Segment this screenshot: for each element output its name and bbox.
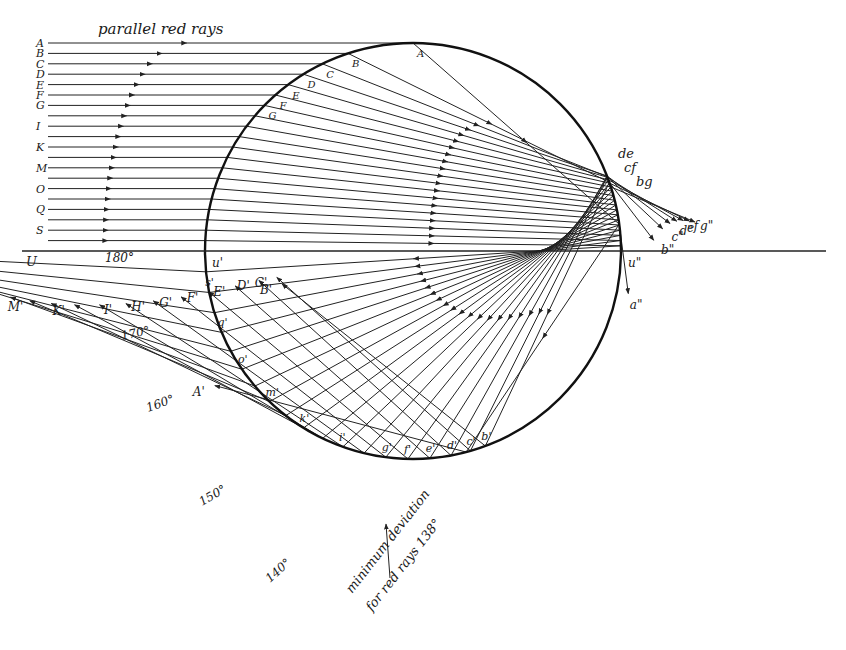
caustic-label-cf: cf: [624, 160, 638, 175]
secondary-label: b": [661, 243, 674, 257]
refracted-ray: [322, 64, 607, 177]
exit-label: M': [7, 300, 24, 314]
ray-label-S: S: [36, 224, 44, 237]
refracted-ray: [206, 230, 621, 240]
exit-ray: [30, 301, 270, 402]
back-label: c': [466, 435, 475, 448]
axis-label-u: U: [26, 254, 38, 269]
refracted-ray: [247, 126, 613, 191]
caustic-labels: de cf bg: [618, 146, 653, 189]
ray-label-M: M: [35, 162, 48, 175]
back-label: i': [339, 431, 346, 444]
optical-axis: U u' u": [22, 251, 826, 270]
rainbow-ray-diagram: parallel red rays U u' u" 180° 170° 160°…: [0, 0, 846, 650]
caustic-label-de: de: [618, 146, 634, 161]
angle-150: 150°: [197, 482, 229, 509]
axis-exit-label: u": [628, 256, 641, 270]
surface-label-G: G: [268, 110, 276, 121]
surface-label-D: D: [306, 79, 315, 90]
back-label: e': [426, 442, 436, 455]
back-label: k': [300, 412, 310, 425]
refracted-ray: [212, 199, 620, 225]
exit-label: I': [103, 303, 112, 317]
exit-label: K': [52, 304, 65, 318]
diagram-title: parallel red rays: [98, 20, 224, 38]
exit-label: H': [130, 300, 145, 314]
secondary-label: a": [630, 298, 643, 312]
ray-label-Q: Q: [36, 203, 45, 216]
exit-label: E': [212, 285, 225, 299]
ray-label-G: G: [36, 99, 45, 112]
refracted-ray: [303, 74, 607, 176]
exit-ray: [209, 292, 408, 459]
surface-label-F: F: [278, 100, 287, 111]
exit-label: D': [236, 279, 250, 293]
surface-label-A: A: [416, 48, 424, 59]
refracted-ray: [264, 105, 609, 183]
refracted-ray: [348, 53, 609, 182]
refracted-ray: [215, 189, 619, 220]
exit-label: A': [192, 385, 205, 399]
refracted-ray: [275, 95, 608, 180]
reflected-ray: [206, 246, 621, 272]
exit-ray: [235, 286, 430, 458]
ray-label-O: O: [36, 183, 45, 196]
min-deviation-annotation: minimum deviation for red rays 138°: [343, 487, 444, 615]
surface-label-C: C: [326, 69, 334, 80]
transmitted-ray: [611, 187, 695, 222]
refracted-ray: [209, 209, 620, 230]
secondary-label: g": [700, 219, 713, 233]
back-label: s': [205, 276, 214, 289]
ray-label-K: K: [35, 141, 45, 154]
exit-label: F': [186, 291, 199, 305]
exit-label: G': [159, 296, 172, 310]
angle-140: 140°: [263, 555, 294, 585]
back-label: q': [218, 316, 228, 329]
back-label: m': [266, 386, 279, 399]
axis-entry-label: u': [212, 256, 223, 270]
surface-label-B: B: [351, 58, 359, 69]
refracted-ray: [233, 147, 615, 200]
refracted-ray: [288, 85, 607, 178]
back-label: d': [447, 439, 457, 452]
back-label: o': [238, 353, 248, 366]
exit-label: C': [255, 276, 267, 290]
angle-160: 160°: [144, 392, 176, 415]
ray-label-I: I: [35, 120, 41, 133]
back-label: b': [481, 430, 491, 443]
angle-180: 180°: [105, 251, 134, 265]
refracted-ray: [218, 178, 618, 215]
refracted-ray: [207, 220, 620, 236]
surface-label-E: E: [291, 90, 300, 101]
caustic-label-bg: bg: [636, 174, 653, 189]
back-label: g': [382, 441, 392, 454]
back-label: f': [403, 443, 411, 456]
